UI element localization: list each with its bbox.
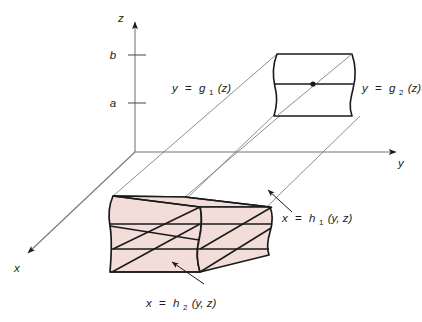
label-g1-fn: g bbox=[199, 82, 206, 94]
label-g2-sub: 2 bbox=[399, 88, 404, 97]
label-h1-eq: = bbox=[295, 212, 302, 224]
tick-label-b: b bbox=[110, 49, 117, 61]
label-g2-lhs: y bbox=[361, 82, 369, 94]
guide-line-upper-left bbox=[113, 54, 277, 196]
label-h2-fn: h bbox=[173, 297, 179, 309]
projection-point-marker bbox=[310, 81, 315, 86]
label-g1: y = g 1 (z) bbox=[171, 82, 231, 97]
label-h1-arg: (y, z) bbox=[328, 212, 353, 224]
label-h1-sub: 1 bbox=[319, 218, 324, 227]
upper-cross-section bbox=[273, 54, 355, 116]
label-h2-arg: (y, z) bbox=[192, 297, 217, 309]
label-h1-lhs: x bbox=[281, 212, 289, 224]
label-g2-arg: (z) bbox=[408, 82, 422, 94]
label-g1-arg: (z) bbox=[218, 82, 232, 94]
y-axis-label: y bbox=[397, 157, 405, 169]
label-g1-sub: 1 bbox=[209, 88, 214, 97]
figure-container: z y x b a bbox=[0, 0, 422, 322]
label-g2: y = g 2 (z) bbox=[361, 82, 421, 97]
label-h2: x = h 2 (y, z) bbox=[145, 297, 217, 312]
h1-callout-arrow bbox=[268, 190, 292, 212]
label-h1-fn: h bbox=[309, 212, 315, 224]
label-h2-eq: = bbox=[159, 297, 166, 309]
label-g2-fn: g bbox=[389, 82, 396, 94]
svg-text:y = g 2: y = g 2 (z) bbox=[361, 82, 421, 97]
solid-front-cap bbox=[109, 196, 201, 272]
solid-region-body bbox=[109, 196, 272, 272]
x-axis-label: x bbox=[13, 262, 21, 274]
label-g1-eq: = bbox=[185, 82, 192, 94]
label-g2-eq: = bbox=[375, 82, 382, 94]
label-h2-sub: 2 bbox=[183, 303, 188, 312]
label-g1-lhs: y bbox=[171, 82, 179, 94]
z-axis-label: z bbox=[117, 12, 124, 24]
svg-text:y = g 1: y = g 1 (z) bbox=[171, 82, 231, 97]
label-h2-lhs: x bbox=[145, 297, 153, 309]
label-h1: x = h 1 (y, z) bbox=[281, 212, 353, 227]
solid-region-diagram: z y x b a bbox=[0, 0, 422, 322]
tick-label-a: a bbox=[110, 97, 116, 109]
solid-back-cap bbox=[197, 207, 272, 272]
svg-text:x = h 2: x = h 2 (y, z) bbox=[145, 297, 217, 312]
svg-text:x = h 1: x = h 1 (y, z) bbox=[281, 212, 353, 227]
